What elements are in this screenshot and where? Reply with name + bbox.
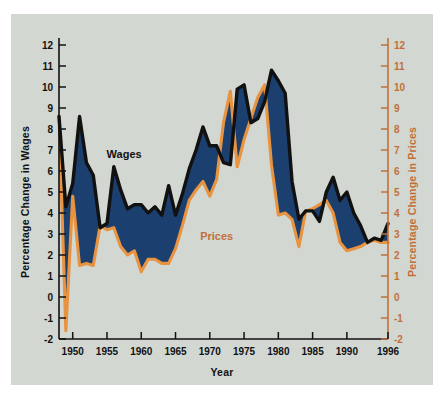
right-tick-label: 7 xyxy=(394,145,400,156)
right-tick-label: 9 xyxy=(394,103,400,114)
x-tick-label: 1950 xyxy=(62,346,85,357)
x-tick-label: 1960 xyxy=(130,346,153,357)
right-tick-label: 3 xyxy=(394,229,400,240)
chart-axes xyxy=(59,38,388,339)
wages-series-annotation: Wages xyxy=(107,148,142,160)
left-tick-label: 12 xyxy=(42,40,54,51)
right-tick-label: 0 xyxy=(394,292,400,303)
x-axis-title: Year xyxy=(211,366,234,378)
right-tick-label: 6 xyxy=(394,166,400,177)
left-tick-label: 7 xyxy=(47,145,53,156)
right-axis-title: Percentage Change in Prices xyxy=(406,127,418,277)
right-tick-label: 8 xyxy=(394,124,400,135)
left-tick-label: 10 xyxy=(42,82,54,93)
left-tick-label: 5 xyxy=(47,187,53,198)
right-tick-label: 5 xyxy=(394,187,400,198)
left-tick-label: 2 xyxy=(47,250,53,261)
right-tick-label: 1 xyxy=(394,271,400,282)
left-tick-label: 0 xyxy=(47,292,53,303)
chart-plate: 1211109876543210-1-2 1211109876543210-1-… xyxy=(11,14,433,385)
x-tick-label: 1965 xyxy=(164,346,187,357)
x-tick-label: 1985 xyxy=(301,346,324,357)
left-tick-label: -1 xyxy=(44,313,53,324)
right-axis-tick-labels: 1211109876543210-1-2 xyxy=(394,40,406,345)
left-axis-title: Percentage Change in Wages xyxy=(19,126,31,278)
right-tick-label: 4 xyxy=(394,208,400,219)
x-tick-label: 1996 xyxy=(377,346,400,357)
right-tick-label: -1 xyxy=(394,313,403,324)
left-axis-tick-labels: 1211109876543210-1-2 xyxy=(42,40,54,345)
left-tick-label: -2 xyxy=(44,334,53,345)
left-tick-label: 1 xyxy=(47,271,53,282)
right-tick-label: -2 xyxy=(394,334,403,345)
right-tick-label: 11 xyxy=(394,61,405,72)
left-tick-label: 6 xyxy=(47,166,53,177)
left-tick-label: 11 xyxy=(42,61,53,72)
right-tick-label: 2 xyxy=(394,250,400,261)
left-tick-label: 9 xyxy=(47,103,53,114)
x-tick-label: 1955 xyxy=(96,346,119,357)
x-tick-label: 1975 xyxy=(233,346,256,357)
wages-prices-area-chart: 1211109876543210-1-2 1211109876543210-1-… xyxy=(11,14,433,385)
prices-series-annotation: Prices xyxy=(200,230,233,242)
x-tick-label: 1980 xyxy=(267,346,290,357)
right-tick-label: 12 xyxy=(394,40,406,51)
left-tick-label: 4 xyxy=(47,208,53,219)
chart-figure: 1211109876543210-1-2 1211109876543210-1-… xyxy=(0,0,444,396)
left-tick-label: 8 xyxy=(47,124,53,135)
x-tick-label: 1970 xyxy=(199,346,222,357)
right-tick-label: 10 xyxy=(394,82,406,93)
x-tick-label: 1990 xyxy=(336,346,359,357)
x-axis-tick-labels: 1950195519601965197019751980198519901996 xyxy=(62,346,400,357)
left-tick-label: 3 xyxy=(47,229,53,240)
